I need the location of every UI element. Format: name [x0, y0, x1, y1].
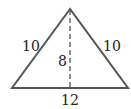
right-side-label: 10 [103, 38, 121, 54]
base-label: 12 [61, 92, 79, 108]
left-side-label: 10 [22, 38, 40, 54]
triangle-diagram: 10 10 8 12 [0, 0, 131, 109]
height-label: 8 [58, 53, 67, 69]
